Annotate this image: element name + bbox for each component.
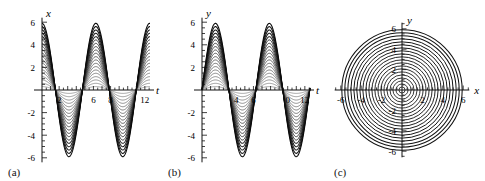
svg-text:2: 2 [57,95,62,105]
panel-a: 642-2-4-626812tx (a) [0,0,160,181]
svg-text:6: 6 [251,95,256,105]
panel-b-label: (b) [168,166,181,178]
svg-text:-2: -2 [28,108,36,118]
svg-text:2: 2 [191,63,196,73]
svg-text:2: 2 [420,95,425,105]
svg-text:-4: -4 [389,126,397,136]
svg-text:-6: -6 [28,153,36,163]
svg-text:12: 12 [300,95,309,105]
svg-text:-4: -4 [188,131,196,141]
svg-text:4: 4 [441,95,446,105]
svg-text:2: 2 [392,65,397,75]
svg-text:x: x [473,84,479,96]
svg-text:4: 4 [234,95,239,105]
svg-text:-4: -4 [357,95,365,105]
svg-text:2: 2 [31,63,36,73]
panel-c-label: (c) [334,166,346,178]
panel-b: 642-2-4-646012ty (b) [160,0,320,181]
svg-text:12: 12 [140,95,149,105]
svg-text:-4: -4 [28,131,36,141]
svg-text:6: 6 [461,95,466,105]
svg-text:8: 8 [108,95,113,105]
plot-b-svg: 642-2-4-646012ty [160,0,320,181]
svg-text:x: x [45,7,51,19]
svg-text:6: 6 [191,18,196,28]
svg-text:4: 4 [191,40,196,50]
svg-text:y: y [205,7,211,19]
svg-text:0: 0 [285,95,290,105]
svg-text:-2: -2 [389,106,397,116]
svg-text:-6: -6 [337,95,345,105]
plot-a-svg: 642-2-4-626812tx [0,0,160,181]
svg-text:6: 6 [392,24,397,34]
svg-text:6: 6 [91,95,96,105]
svg-text:4: 4 [392,45,397,55]
svg-text:y: y [406,14,412,26]
panel-c: -6-4-2246642-2-4-6xy (c) [320,0,485,181]
plot-c-svg: -6-4-2246642-2-4-6xy [320,0,485,181]
svg-text:4: 4 [31,40,36,50]
svg-text:-2: -2 [188,108,196,118]
svg-text:-6: -6 [389,147,397,157]
panel-a-label: (a) [8,166,20,178]
svg-text:-6: -6 [188,153,196,163]
svg-text:-2: -2 [378,95,386,105]
svg-text:6: 6 [31,18,36,28]
